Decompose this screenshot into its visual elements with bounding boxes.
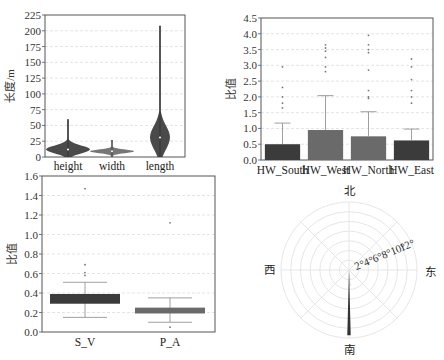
x-category-label: HW_North	[343, 164, 395, 176]
y-tick-label: 100	[25, 88, 42, 100]
direction-label-south: 南	[344, 343, 355, 356]
outlier-point	[325, 71, 327, 73]
outlier-point	[84, 272, 86, 274]
outlier-point	[282, 66, 284, 68]
outlier-point	[325, 57, 327, 59]
y-tick-label: 3.0	[243, 59, 257, 71]
direction-label-west: 西	[264, 264, 275, 276]
y-tick-label: 1.2	[24, 209, 38, 221]
axes-frame	[261, 18, 433, 160]
y-tick-label: 175	[25, 41, 42, 53]
outlier-point	[368, 98, 370, 100]
y-tick-label: 4.0	[243, 28, 257, 40]
y-tick-label: 225	[25, 9, 42, 21]
polar-spoke	[301, 222, 349, 270]
violin-median-dot	[67, 148, 69, 150]
polar-rose-chart-panel: 2°4°6°8°10°12°北南东西	[264, 185, 436, 356]
y-tick-label: 0.5	[243, 138, 257, 150]
outlier-point	[368, 44, 370, 46]
violin-median-dot	[159, 136, 161, 138]
outlier-point	[282, 87, 284, 89]
outlier-point	[325, 44, 327, 46]
x-category-label: HW_East	[389, 164, 435, 176]
y-tick-label: 0.0	[243, 154, 257, 166]
outlier-point	[411, 58, 413, 60]
x-category-label: width	[99, 160, 125, 172]
box-S_V	[50, 294, 120, 304]
outlier-point	[368, 96, 370, 98]
outlier-point	[169, 222, 171, 224]
ratio-box-chart-panel: 0.00.20.40.60.81.01.21.41.6比值S_VP_A	[6, 170, 215, 348]
y-tick-label: 75	[30, 104, 42, 116]
x-category-label: P_A	[160, 336, 181, 348]
polar-spoke	[349, 270, 397, 318]
x-category-label: length	[146, 160, 175, 173]
outlier-point	[169, 326, 171, 328]
outlier-point	[411, 66, 413, 68]
y-axis-label: 比值	[6, 243, 18, 265]
chart-figure: 0255075100125150175200225长度/mheightwidth…	[0, 0, 444, 360]
outlier-point	[84, 275, 86, 277]
y-tick-label: 2.5	[243, 75, 257, 87]
violin-median-dot	[111, 150, 113, 152]
outlier-point	[368, 69, 370, 71]
y-tick-label: 0.2	[24, 307, 38, 319]
y-axis-label: 长度/m	[3, 69, 16, 103]
outlier-point	[282, 96, 284, 98]
y-tick-label: 1.6	[24, 170, 38, 182]
y-tick-label: 1.5	[243, 107, 257, 119]
y-tick-label: 1.0	[243, 122, 257, 134]
outlier-point	[368, 52, 370, 54]
bar-HW_West	[308, 130, 343, 160]
outlier-point	[84, 264, 86, 266]
outlier-point	[325, 47, 327, 49]
radial-tick-label: 12°	[397, 237, 416, 254]
outlier-point	[411, 90, 413, 92]
outlier-point	[368, 49, 370, 51]
outlier-point	[282, 102, 284, 104]
y-tick-label: 3.5	[243, 44, 257, 56]
y-tick-label: 150	[25, 56, 42, 68]
y-tick-label: 0	[36, 151, 42, 163]
y-tick-label: 25	[30, 135, 42, 147]
outlier-point	[325, 50, 327, 52]
y-axis-label: 比值	[225, 78, 237, 100]
outlier-point	[411, 79, 413, 81]
x-category-label: height	[54, 160, 84, 173]
outlier-point	[368, 90, 370, 92]
hw-bar-chart-panel: 0.00.51.01.52.02.53.03.54.04.5比值HW_South…	[225, 12, 435, 176]
direction-label-north: 北	[344, 185, 356, 197]
polar-spoke	[301, 270, 349, 318]
y-tick-label: 125	[25, 72, 42, 84]
outlier-point	[325, 66, 327, 68]
y-tick-label: 0.0	[24, 326, 38, 338]
direction-label-east: 东	[425, 266, 436, 278]
y-tick-label: 1.0	[24, 229, 38, 241]
y-tick-label: 2.0	[243, 91, 257, 103]
box-P_A	[135, 308, 205, 314]
y-tick-label: 1.4	[24, 190, 38, 202]
bar-HW_East	[394, 140, 429, 160]
bar-HW_North	[351, 136, 386, 160]
outlier-point	[84, 188, 86, 190]
outlier-point	[411, 96, 413, 98]
y-tick-label: 0.8	[24, 248, 38, 260]
outlier-point	[411, 102, 413, 104]
y-tick-label: 50	[30, 119, 42, 131]
y-tick-label: 0.6	[24, 268, 38, 280]
outlier-point	[368, 34, 370, 36]
y-tick-label: 200	[25, 25, 42, 37]
y-tick-label: 0.4	[24, 287, 38, 299]
violin-plot-panel: 0255075100125150175200225长度/mheightwidth…	[3, 9, 185, 173]
bar-HW_South	[265, 144, 300, 160]
outlier-point	[282, 107, 284, 109]
x-category-label: S_V	[75, 336, 96, 348]
y-tick-label: 4.5	[243, 12, 257, 24]
